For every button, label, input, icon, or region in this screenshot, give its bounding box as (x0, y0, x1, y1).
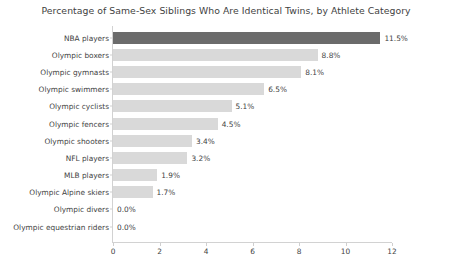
plot-area: NBA players11.5%Olympic boxers8.8%Olympi… (0, 0, 452, 277)
bar (113, 152, 187, 164)
x-axis-tick (113, 243, 114, 246)
bar-value-label: 4.5% (222, 119, 241, 128)
bar-row: Olympic cyclists5.1% (0, 98, 452, 115)
bar (113, 169, 157, 181)
x-axis-tick-label: 12 (387, 247, 396, 256)
bar-rows: NBA players11.5%Olympic boxers8.8%Olympi… (0, 29, 452, 235)
bar (113, 100, 232, 112)
x-axis-tick (299, 243, 300, 246)
x-axis-tick (392, 243, 393, 246)
bar-row: Olympic swimmers6.5% (0, 81, 452, 98)
category-label: Olympic boxers (52, 50, 109, 59)
x-axis-tick (253, 243, 254, 246)
bar-value-label: 0.0% (117, 222, 136, 231)
x-axis-tick (346, 243, 347, 246)
category-label: MLB players (64, 171, 109, 180)
bar-row: Olympic divers0.0% (0, 201, 452, 218)
bar-value-label: 5.1% (236, 102, 255, 111)
category-label: Olympic gymnasts (40, 67, 109, 76)
bar-value-label: 3.2% (191, 153, 210, 162)
bar (113, 49, 318, 61)
x-axis-tick-label: 10 (341, 247, 350, 256)
category-label: Olympic swimmers (39, 85, 109, 94)
x-axis-tick (160, 243, 161, 246)
category-label: Olympic fencers (49, 119, 109, 128)
bar-value-label: 8.8% (322, 50, 341, 59)
bar (113, 135, 192, 147)
category-label: Olympic shooters (44, 136, 109, 145)
bar-row: Olympic fencers4.5% (0, 115, 452, 132)
bar (113, 66, 301, 78)
x-axis-tick-label: 6 (250, 247, 255, 256)
bar-row: NFL players3.2% (0, 149, 452, 166)
bar-row: Olympic boxers8.8% (0, 46, 452, 63)
bar (113, 186, 153, 198)
bar-value-label: 0.0% (117, 205, 136, 214)
bar-value-label: 1.9% (161, 171, 180, 180)
category-label: Olympic divers (54, 205, 109, 214)
bar-value-label: 3.4% (196, 136, 215, 145)
bar (113, 83, 264, 95)
bar-row: Olympic Alpine skiers1.7% (0, 184, 452, 201)
x-axis-tick-label: 8 (297, 247, 302, 256)
x-axis-tick-label: 2 (157, 247, 162, 256)
bar-row: Olympic gymnasts8.1% (0, 63, 452, 80)
bar-value-label: 1.7% (157, 188, 176, 197)
bar (113, 32, 380, 44)
bar-value-label: 6.5% (268, 85, 287, 94)
x-axis-tick-label: 0 (111, 247, 116, 256)
y-axis-tick (110, 226, 113, 227)
category-label: NBA players (64, 33, 109, 42)
bar-row: MLB players1.9% (0, 167, 452, 184)
category-label: NFL players (66, 153, 109, 162)
y-axis-tick (110, 209, 113, 210)
category-label: Olympic cyclists (49, 102, 109, 111)
bar-row: Olympic shooters3.4% (0, 132, 452, 149)
bar-row: Olympic equestrian riders0.0% (0, 218, 452, 235)
bar (113, 118, 218, 130)
category-label: Olympic equestrian riders (13, 222, 109, 231)
x-axis-tick-label: 4 (204, 247, 209, 256)
bar-value-label: 11.5% (384, 33, 407, 42)
bar-chart: Percentage of Same-Sex Siblings Who Are … (0, 0, 452, 277)
x-axis-tick (206, 243, 207, 246)
bar-row: NBA players11.5% (0, 29, 452, 46)
bar-value-label: 8.1% (305, 67, 324, 76)
category-label: Olympic Alpine skiers (29, 188, 109, 197)
